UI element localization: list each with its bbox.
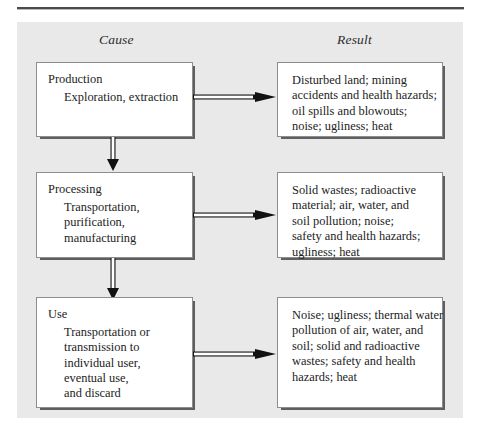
result-line: oil spills and blowouts;: [292, 104, 434, 119]
cause-box-processing-subline: purification,: [64, 215, 183, 230]
cause-box-use-subline: individual user,: [64, 356, 183, 371]
result-box-processing: Solid wastes; radioactive material; air,…: [277, 172, 443, 258]
arrow-processing-to-use: [105, 258, 123, 302]
top-horizontal-rule: [17, 7, 464, 10]
cause-box-processing-subline: manufacturing: [64, 231, 183, 246]
result-box-production: Disturbed land; mining accidents and hea…: [277, 62, 443, 137]
cause-box-processing: Processing Transportation, purification,…: [36, 172, 193, 258]
arrow-production-to-processing: [105, 137, 123, 173]
result-line: safety and health hazards;: [292, 229, 434, 244]
result-line: wastes; safety and health: [292, 354, 434, 369]
cause-box-processing-subline: Transportation,: [64, 200, 183, 215]
arrow-production-cause-to-result: [193, 89, 277, 105]
cause-box-use-title: Use: [48, 307, 183, 322]
cause-box-use: Use Transportation or transmission to in…: [36, 297, 193, 408]
cause-box-use-subline: and discard: [64, 386, 183, 401]
cause-box-processing-subtext: Transportation, purification, manufactur…: [48, 200, 183, 246]
result-line: Solid wastes; radioactive: [292, 183, 434, 198]
result-line: Noise; ugliness; thermal water: [292, 308, 434, 323]
arrow-processing-cause-to-result: [193, 207, 277, 223]
column-header-cause: Cause: [99, 32, 134, 48]
energy-cause-result-diagram: Cause Result Production Exploration, ext…: [0, 0, 480, 442]
column-header-result: Result: [337, 32, 372, 48]
result-line: soil; solid and radioactive: [292, 339, 434, 354]
arrow-use-cause-to-result: [193, 346, 277, 362]
cause-box-use-subline: Transportation or: [64, 325, 183, 340]
cause-box-use-content: Use Transportation or transmission to in…: [37, 298, 192, 401]
cause-box-production-subtext: Exploration, extraction: [48, 90, 183, 105]
result-line: Disturbed land; mining: [292, 73, 434, 88]
cause-box-production-content: Production Exploration, extraction: [37, 63, 192, 105]
cause-box-processing-title: Processing: [48, 182, 183, 197]
cause-box-use-subtext: Transportation or transmission to indivi…: [48, 325, 183, 401]
cause-box-use-subline: transmission to: [64, 340, 183, 355]
cause-box-use-subline: eventual use,: [64, 371, 183, 386]
cause-box-production: Production Exploration, extraction: [36, 62, 193, 137]
result-line: hazards; heat: [292, 370, 434, 385]
result-line: ugliness; heat: [292, 245, 434, 260]
result-line: pollution of air, water, and: [292, 323, 434, 338]
cause-box-processing-content: Processing Transportation, purification,…: [37, 173, 192, 246]
result-line: noise; ugliness; heat: [292, 119, 434, 134]
cause-box-production-subline: Exploration, extraction: [64, 90, 183, 105]
result-box-use: Noise; ugliness; thermal water pollution…: [277, 297, 443, 408]
result-line: accidents and health hazards;: [292, 88, 434, 103]
result-box-use-content: Noise; ugliness; thermal water pollution…: [278, 298, 442, 385]
result-box-processing-content: Solid wastes; radioactive material; air,…: [278, 173, 442, 260]
result-line: soil pollution; noise;: [292, 214, 434, 229]
result-line: material; air, water, and: [292, 198, 434, 213]
result-box-production-content: Disturbed land; mining accidents and hea…: [278, 63, 442, 135]
cause-box-production-title: Production: [48, 72, 183, 87]
